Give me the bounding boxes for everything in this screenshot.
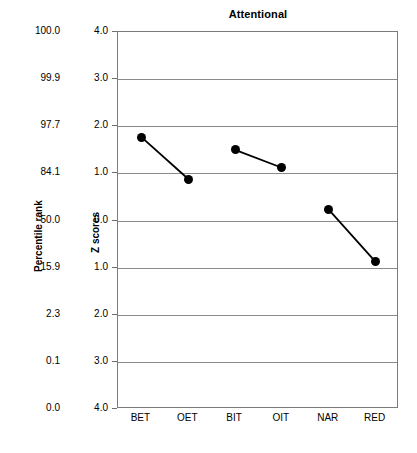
zscore-tick-label: 3.0	[74, 73, 108, 83]
category-label-bit: BIT	[211, 412, 257, 424]
chart-title: Attentional	[117, 8, 399, 20]
zscore-tick	[112, 125, 117, 126]
data-point-bit	[231, 145, 240, 154]
category-label-bet: BET	[117, 412, 163, 424]
zscore-tick-label: 2.0	[74, 309, 108, 319]
percentile-tick-label: 84.1	[18, 167, 60, 177]
gridline	[118, 173, 397, 174]
gridline	[118, 79, 397, 80]
percentile-tick-label: 97.7	[18, 120, 60, 130]
zscore-tick	[112, 220, 117, 221]
zscore-tick	[112, 361, 117, 362]
data-point-oet	[184, 175, 193, 184]
series-line-nar-red	[329, 210, 376, 262]
category-label-oit: OIT	[258, 412, 304, 424]
data-point-nar	[324, 205, 333, 214]
zscore-tick	[112, 267, 117, 268]
category-axis-labels: BETOETBITOITNARRED	[117, 412, 398, 428]
zscore-tick-label: 2.0	[74, 120, 108, 130]
gridline	[118, 221, 397, 222]
zscore-tick-label: 1.0	[74, 167, 108, 177]
category-label-nar: NAR	[305, 412, 351, 424]
percentile-tick-label: 99.9	[18, 73, 60, 83]
series-line-bit-oit	[235, 150, 282, 168]
zscore-tick-label: 3.0	[74, 356, 108, 366]
data-point-red	[371, 257, 380, 266]
zscore-tick	[112, 314, 117, 315]
zscore-tick-label: 4.0	[74, 403, 108, 413]
gridline	[118, 268, 397, 269]
zscore-tick-label: 1.0	[74, 262, 108, 272]
zscore-tick	[112, 31, 117, 32]
percentile-tick-label: 0.0	[18, 403, 60, 413]
category-label-oet: OET	[164, 412, 210, 424]
zscore-tick	[112, 408, 117, 409]
zscore-tick	[112, 78, 117, 79]
percentile-tick-label: 100.0	[18, 26, 60, 36]
percentile-tick-label: 2.3	[18, 309, 60, 319]
category-label-red: RED	[352, 412, 398, 424]
percentile-axis-title: Percentile rank	[33, 200, 44, 272]
chart-figure: Attentional 100.099.997.784.150.015.92.3…	[0, 0, 417, 453]
data-point-bet	[137, 133, 146, 142]
data-point-oit	[277, 163, 286, 172]
plot-area	[117, 31, 398, 408]
gridline	[118, 126, 397, 127]
zscore-tick-label: 4.0	[74, 26, 108, 36]
percentile-tick-label: 0.1	[18, 356, 60, 366]
zscore-tick	[112, 172, 117, 173]
zscore-axis-title: Z scores	[90, 212, 101, 253]
gridline	[118, 362, 397, 363]
gridline	[118, 315, 397, 316]
